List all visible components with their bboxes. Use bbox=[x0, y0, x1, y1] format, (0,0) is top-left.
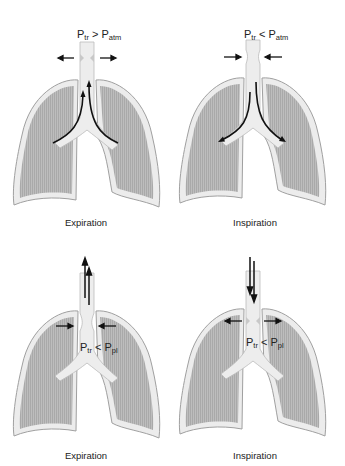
caption-inspiration: Inspiration bbox=[169, 217, 341, 228]
panel-extrathoracic-inspiration: Ptr < Patm Inspiration bbox=[172, 0, 344, 233]
panel-intrathoracic-inspiration: Ptr < Ppl Inspiration bbox=[172, 233, 344, 466]
pressure-label: Ptr > Patm bbox=[77, 28, 121, 42]
panel-extrathoracic-expiration: Ptr > Patm Expiration bbox=[0, 0, 172, 233]
caption-expiration: Expiration bbox=[0, 217, 172, 228]
caption-inspiration: Inspiration bbox=[169, 450, 341, 461]
pressure-label: Ptr < Patm bbox=[244, 28, 288, 42]
panel-intrathoracic-expiration: Ptr < Ppl Expiration bbox=[0, 233, 172, 466]
pressure-label: Ptr < Ppl bbox=[80, 341, 118, 355]
pressure-label: Ptr < Ppl bbox=[246, 336, 284, 350]
caption-expiration: Expiration bbox=[0, 450, 172, 461]
